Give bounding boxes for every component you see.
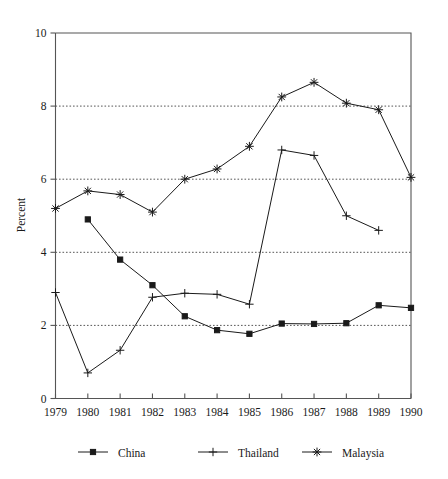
series-malaysia-pt-1989-asterisk-marker bbox=[374, 105, 383, 114]
series-malaysia-pt-1987-asterisk-marker bbox=[310, 78, 319, 87]
series-china-pt-1986-square-marker bbox=[279, 321, 284, 326]
x-tick-label-1989: 1989 bbox=[367, 406, 390, 418]
series-malaysia-pt-1980-asterisk-marker bbox=[83, 186, 92, 195]
series-china-pt-1981-square-marker bbox=[118, 257, 123, 262]
line-chart: 0246810 19791980198119821983198419851986… bbox=[0, 0, 448, 479]
y-tick-label-10: 10 bbox=[35, 27, 47, 39]
series-china-pt-1982-square-marker bbox=[150, 283, 155, 288]
x-tick-label-1985: 1985 bbox=[238, 406, 261, 418]
series-malaysia-pt-1979-asterisk-marker bbox=[51, 204, 60, 213]
y-tick-label-2: 2 bbox=[41, 319, 47, 331]
series-malaysia-pt-1988-asterisk-marker bbox=[342, 99, 351, 108]
x-tick-label-1983: 1983 bbox=[173, 406, 196, 418]
legend-malaysia-asterisk-marker bbox=[313, 448, 322, 457]
series-china-pt-1989-square-marker bbox=[376, 303, 381, 308]
legend-label-malaysia: Malaysia bbox=[342, 447, 384, 460]
x-tick-label-1988: 1988 bbox=[335, 406, 358, 418]
series-malaysia-pt-1985-asterisk-marker bbox=[245, 142, 254, 151]
y-tick-label-6: 6 bbox=[41, 173, 47, 185]
legend-china-square-marker bbox=[90, 449, 95, 454]
x-tick-label-1987: 1987 bbox=[303, 406, 326, 418]
series-china-pt-1985-square-marker bbox=[247, 331, 252, 336]
series-china-pt-1990-square-marker bbox=[408, 305, 413, 310]
x-tick-label-1980: 1980 bbox=[76, 406, 99, 418]
x-tick-label-1982: 1982 bbox=[141, 406, 164, 418]
series-china-pt-1984-square-marker bbox=[214, 328, 219, 333]
legend-label-china: China bbox=[118, 447, 145, 459]
series-malaysia-pt-1984-asterisk-marker bbox=[213, 165, 222, 174]
x-tick-label-1981: 1981 bbox=[109, 406, 132, 418]
x-tick-label-1979: 1979 bbox=[44, 406, 67, 418]
x-tick-label-1990: 1990 bbox=[400, 406, 423, 418]
series-malaysia-pt-1986-asterisk-marker bbox=[277, 93, 286, 102]
series-china-pt-1983-square-marker bbox=[182, 314, 187, 319]
y-tick-label-4: 4 bbox=[41, 246, 47, 258]
series-malaysia-pt-1981-asterisk-marker bbox=[116, 190, 125, 199]
series-china-pt-1987-square-marker bbox=[311, 321, 316, 326]
y-tick-label-8: 8 bbox=[41, 100, 47, 112]
series-malaysia-pt-1983-asterisk-marker bbox=[180, 175, 189, 184]
series-malaysia-pt-1990-asterisk-marker bbox=[407, 173, 416, 182]
series-china-pt-1988-square-marker bbox=[344, 321, 349, 326]
legend-label-thailand: Thailand bbox=[238, 447, 279, 459]
series-china-pt-1980-square-marker bbox=[85, 217, 90, 222]
series-malaysia-pt-1982-asterisk-marker bbox=[148, 208, 157, 217]
x-tick-label-1986: 1986 bbox=[270, 406, 293, 418]
x-tick-label-1984: 1984 bbox=[206, 406, 229, 418]
y-tick-label-0: 0 bbox=[41, 393, 47, 405]
chart-figure: 0246810 19791980198119821983198419851986… bbox=[0, 0, 448, 479]
y-axis-label: Percent bbox=[15, 197, 27, 232]
